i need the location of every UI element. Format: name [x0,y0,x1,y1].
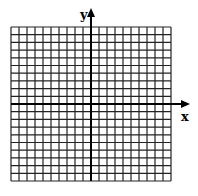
y-axis-arrow-icon [87,8,95,17]
y-axis-label: y [79,7,88,22]
coordinate-plane: x y [0,0,198,196]
coordinate-grid-diagram: x y [0,0,198,196]
x-axis-arrow-icon [181,100,190,108]
x-axis-label: x [181,109,189,124]
